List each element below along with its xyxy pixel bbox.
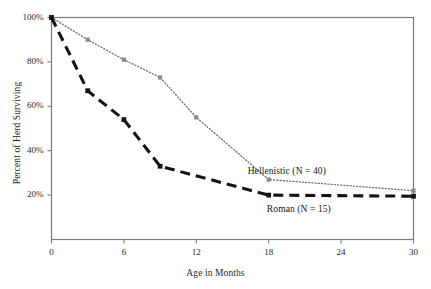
roman-line bbox=[52, 18, 414, 197]
hellenistic-series-label: Hellenistic (N = 40) bbox=[248, 166, 326, 176]
x-axis-tick-marks bbox=[52, 240, 414, 244]
roman-markers bbox=[49, 15, 416, 199]
roman-data-point bbox=[122, 117, 127, 122]
x-tick-label: 6 bbox=[109, 247, 139, 257]
y-tick-label: 80% bbox=[4, 56, 44, 66]
y-tick-label: 20% bbox=[4, 189, 44, 199]
x-tick-label: 12 bbox=[181, 247, 211, 257]
roman-data-point bbox=[266, 193, 271, 198]
hellenistic-data-point bbox=[86, 38, 90, 42]
y-tick-label: 60% bbox=[4, 100, 44, 110]
survivorship-chart: Age in Months Percent of Herd Surviving … bbox=[0, 0, 431, 289]
x-axis-title: Age in Months bbox=[0, 268, 431, 278]
roman-data-point bbox=[411, 194, 416, 199]
hellenistic-data-point bbox=[158, 75, 162, 79]
hellenistic-data-point bbox=[267, 177, 271, 181]
series-roman bbox=[49, 15, 416, 199]
hellenistic-data-point bbox=[122, 58, 126, 62]
y-tick-label: 100% bbox=[4, 12, 44, 22]
hellenistic-data-point bbox=[411, 189, 415, 193]
x-tick-label: 24 bbox=[326, 247, 356, 257]
x-tick-label: 18 bbox=[254, 247, 284, 257]
roman-data-point bbox=[85, 88, 90, 93]
hellenistic-data-point bbox=[194, 115, 198, 119]
roman-series-label: Roman (N = 15) bbox=[267, 204, 331, 214]
plot-area-border bbox=[52, 18, 414, 240]
roman-data-point bbox=[49, 15, 54, 20]
y-tick-label: 40% bbox=[4, 145, 44, 155]
x-tick-label: 0 bbox=[37, 247, 67, 257]
x-tick-label: 30 bbox=[399, 247, 429, 257]
roman-data-point bbox=[158, 164, 163, 169]
